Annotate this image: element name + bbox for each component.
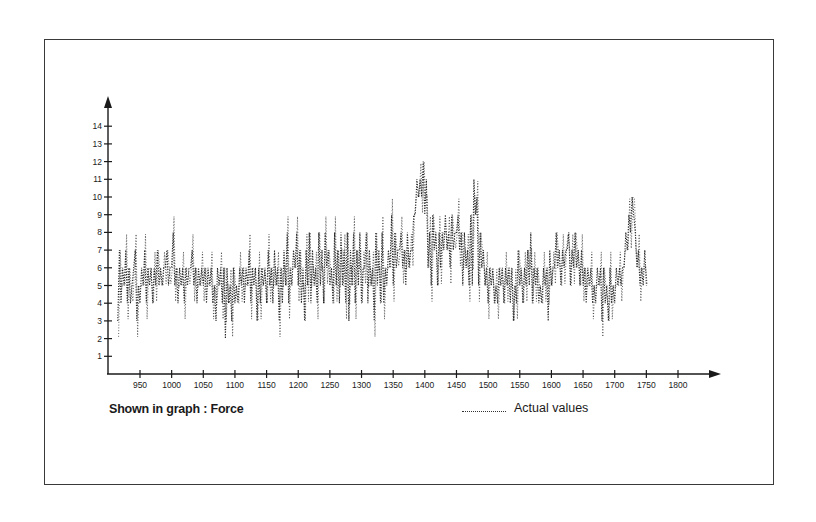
y-tick-label: 11 (93, 174, 102, 184)
x-tick-label: 1800 (669, 380, 688, 390)
y-tick-label: 9 (97, 210, 102, 220)
y-tick-label: 7 (97, 245, 102, 255)
x-tick-label: 1400 (415, 380, 434, 390)
y-tick-label: 8 (97, 227, 102, 237)
y-ticks: 1234567891011121314 (93, 121, 112, 361)
x-axis-arrow-icon (709, 370, 721, 378)
y-tick-label: 13 (93, 139, 103, 149)
x-tick-label: 1100 (226, 380, 245, 390)
x-tick-label: 1200 (289, 380, 308, 390)
y-tick-label: 3 (97, 316, 102, 326)
x-tick-label: 1500 (479, 380, 498, 390)
x-tick-label: 1150 (257, 380, 276, 390)
x-ticks: 9501000105011001150120012501300135014001… (133, 370, 688, 390)
data-series-actual-values (118, 162, 647, 339)
y-tick-label: 12 (93, 157, 103, 167)
x-tick-label: 1350 (384, 380, 403, 390)
legend-dotted-line-icon (462, 411, 506, 412)
x-tick-label: 1000 (162, 380, 181, 390)
chart-caption: Shown in graph : Force (109, 402, 244, 416)
x-tick-label: 1450 (447, 380, 466, 390)
x-tick-label: 1300 (352, 380, 371, 390)
y-tick-label: 4 (97, 298, 102, 308)
y-tick-label: 14 (93, 121, 103, 131)
x-tick-label: 1650 (574, 380, 593, 390)
x-tick-label: 1700 (605, 380, 624, 390)
force-chart: 1234567891011121314 95010001050110011501… (0, 0, 816, 522)
x-tick-label: 1250 (320, 380, 339, 390)
y-tick-label: 1 (97, 351, 102, 361)
y-tick-label: 6 (97, 263, 102, 273)
x-axis: 9501000105011001150120012501300135014001… (107, 370, 721, 390)
x-tick-label: 1600 (542, 380, 561, 390)
x-tick-label: 1750 (637, 380, 656, 390)
y-tick-label: 2 (97, 334, 102, 344)
legend: Actual values (462, 401, 588, 415)
legend-label: Actual values (514, 401, 588, 415)
x-tick-label: 1550 (510, 380, 529, 390)
x-tick-label: 1050 (194, 380, 213, 390)
y-axis-arrow-icon (104, 96, 112, 108)
y-tick-label: 10 (93, 192, 103, 202)
x-tick-label: 950 (133, 380, 147, 390)
y-tick-label: 5 (97, 281, 102, 291)
y-axis: 1234567891011121314 (93, 96, 112, 374)
